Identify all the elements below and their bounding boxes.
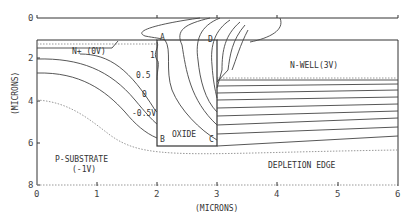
x-tick-4: 4: [274, 189, 279, 199]
y-axis: 2 4 6 8 (MICRONS): [11, 40, 40, 190]
depletion-edge-label: DEPLETION EDGE: [268, 161, 336, 170]
contour-label-0-5: 0.5: [136, 71, 151, 80]
y-axis-label: (MICRONS): [11, 72, 20, 115]
device-cross-section-diagram: 0 2 4 6 8 (MICRONS) 0 1 2 3 4 5 6 (MICRO…: [0, 0, 409, 219]
oxide-region: OXIDE A B C D: [157, 33, 217, 146]
corner-b: B: [160, 135, 165, 144]
n-well-contours: [217, 80, 398, 146]
n-plus-region: N+ (0V): [37, 40, 157, 56]
top-axis-zero-label: 0: [28, 13, 33, 23]
contour-label-neg-0-5: -0.5V: [132, 109, 156, 118]
x-tick-5: 5: [335, 189, 340, 199]
p-substrate-voltage-label: (-1V): [72, 165, 96, 174]
corner-d: D: [208, 35, 213, 44]
y-tick-6: 6: [28, 138, 33, 148]
x-tick-1: 1: [94, 189, 99, 199]
n-well-region: N-WELL(3V): [217, 40, 398, 78]
x-axis-label: (MICRONS): [195, 204, 238, 213]
p-substrate-label: P-SUBSTRATE: [55, 155, 108, 164]
x-tick-6: 6: [395, 189, 400, 199]
y-tick-8: 8: [28, 180, 33, 190]
n-well-label: N-WELL(3V): [290, 61, 338, 70]
contour-label-0: 0: [142, 90, 147, 99]
x-tick-0: 0: [34, 189, 39, 199]
contour-label-1: 1: [150, 51, 155, 60]
corner-a: A: [160, 33, 165, 42]
y-tick-4: 4: [28, 96, 33, 106]
x-tick-2: 2: [154, 189, 159, 199]
oxide-label: OXIDE: [172, 130, 196, 139]
x-tick-3: 3: [214, 189, 219, 199]
y-tick-2: 2: [28, 53, 33, 63]
